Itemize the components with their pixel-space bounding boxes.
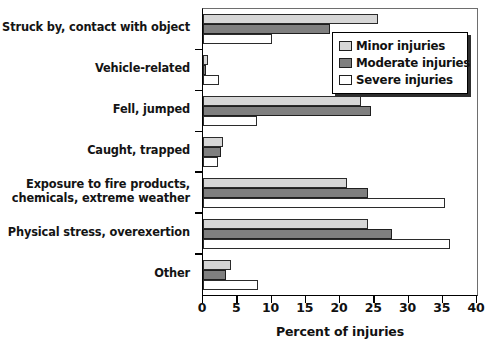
bar-moderate — [203, 188, 367, 198]
x-axis-tick-label: 40 — [468, 300, 485, 315]
y-axis-tick — [195, 212, 202, 213]
category-label: Vehicle-related — [0, 62, 190, 76]
category-label: Other — [0, 267, 190, 281]
y-axis-tick — [195, 131, 202, 132]
category-label-column: Struck by, contact with objectVehicle-re… — [0, 8, 196, 296]
category-label: Struck by, contact with object — [0, 21, 190, 35]
bar-moderate — [203, 147, 221, 157]
y-axis-tick — [195, 49, 202, 50]
bar-minor — [203, 178, 347, 188]
bar-severe — [203, 116, 256, 126]
bar-minor — [203, 96, 361, 106]
bar-severe — [203, 157, 218, 167]
bar-severe — [203, 34, 272, 44]
bar-moderate — [203, 106, 371, 116]
legend-item-moderate: Moderate injuries — [339, 54, 461, 71]
x-axis-tick-label: 10 — [262, 300, 279, 315]
bar-moderate — [203, 270, 226, 280]
x-axis-tick-label: 20 — [331, 300, 348, 315]
y-axis-tick — [195, 90, 202, 91]
x-axis-tick-label: 35 — [433, 300, 450, 315]
legend-item-minor: Minor injuries — [339, 37, 461, 54]
legend-label-minor: Minor injuries — [356, 39, 445, 53]
injuries-bar-chart: Struck by, contact with objectVehicle-re… — [0, 0, 496, 351]
category-label: Physical stress, overexertion — [0, 226, 190, 240]
x-axis-tick-label: 15 — [296, 300, 313, 315]
x-axis-tick-label: 25 — [365, 300, 382, 315]
category-label: Caught, trapped — [0, 144, 190, 158]
bar-minor — [203, 55, 207, 65]
legend: Minor injuries Moderate injuries Severe … — [332, 32, 468, 94]
x-axis-tick-label: 5 — [232, 300, 241, 315]
bar-minor — [203, 260, 230, 270]
bar-severe — [203, 280, 258, 290]
bar-severe — [203, 239, 450, 249]
legend-swatch-minor-icon — [339, 41, 352, 51]
legend-swatch-moderate-icon — [339, 58, 352, 68]
x-axis-title: Percent of injuries — [202, 324, 478, 339]
x-axis-tick-label: 30 — [399, 300, 416, 315]
bar-minor — [203, 14, 378, 24]
x-axis-tick-label: 0 — [198, 300, 207, 315]
legend-label-severe: Severe injuries — [356, 73, 453, 87]
bar-moderate — [203, 229, 391, 239]
bar-severe — [203, 75, 219, 85]
y-axis-tick — [195, 253, 202, 254]
category-label: Fell, jumped — [0, 103, 190, 117]
legend-label-moderate: Moderate injuries — [356, 56, 470, 70]
bar-moderate — [203, 65, 206, 75]
category-label: Exposure to fire products, chemicals, ex… — [0, 178, 190, 205]
bar-minor — [203, 219, 367, 229]
bar-moderate — [203, 24, 330, 34]
bar-minor — [203, 137, 223, 147]
legend-swatch-severe-icon — [339, 75, 352, 85]
bar-severe — [203, 198, 444, 208]
y-axis-tick — [195, 171, 202, 172]
legend-item-severe: Severe injuries — [339, 71, 461, 88]
